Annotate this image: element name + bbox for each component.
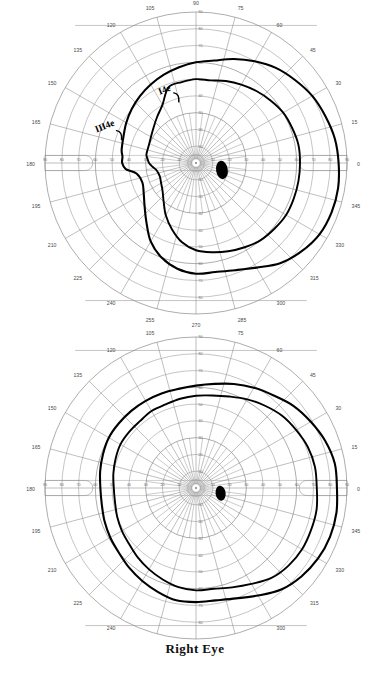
radial-tick-label: 10: [211, 483, 215, 487]
annotation-leader: [174, 93, 179, 102]
meridian-label: 330: [335, 242, 344, 248]
radial-tick-label: 90: [199, 10, 203, 14]
radial-tick-label: 90: [43, 483, 47, 487]
grid-meridian-fine: [197, 438, 203, 484]
radial-tick-label: 70: [199, 44, 203, 48]
radial-tick-label: 60: [295, 483, 299, 487]
radial-tick-label: 30: [199, 111, 203, 115]
radial-tick-label: 40: [199, 419, 203, 423]
radial-tick-label: 10: [177, 158, 181, 162]
meridian-label: 240: [107, 300, 116, 306]
meridian-label: 60: [277, 22, 283, 28]
radial-tick-label: 90: [199, 335, 203, 339]
grid-meridian-fine: [146, 489, 192, 495]
fixation-point: [195, 487, 197, 489]
radial-tick-label: 10: [199, 178, 203, 182]
grid-meridian: [199, 56, 303, 160]
visual-field-chart-bottom: 0153045607590105120135150165180195210225…: [0, 330, 390, 640]
meridian-label: 105: [146, 5, 155, 11]
grid-meridian: [200, 449, 342, 487]
grid-meridian-fine: [165, 491, 193, 528]
grid-meridian: [50, 449, 192, 487]
visual-field-chart-top: 0153045607590105120135150165180195210225…: [0, 0, 390, 330]
grid-meridian-fine: [156, 457, 193, 485]
grid-meridian-fine: [199, 123, 227, 160]
radial-tick-label: 10: [177, 483, 181, 487]
radial-tick-label: 30: [144, 483, 148, 487]
meridian-label: 165: [32, 119, 41, 125]
radial-tick-label: 20: [228, 483, 232, 487]
radial-tick-label: 20: [199, 128, 203, 132]
meridian-label: 120: [107, 347, 116, 353]
radial-tick-label: 80: [60, 483, 64, 487]
meridian-label: 0: [357, 486, 360, 492]
grid-meridian-fine: [146, 481, 192, 487]
isopter-label: I4e: [157, 83, 172, 97]
radial-tick-label: 40: [261, 483, 265, 487]
radial-tick-label: 50: [199, 245, 203, 249]
grid-meridian: [197, 167, 235, 309]
blind-spot: [215, 485, 227, 501]
grid-meridian-fine: [189, 492, 195, 538]
meridian-label: 0: [357, 161, 360, 167]
radial-tick-label: 90: [43, 158, 47, 162]
polar-plot-bottom: 0153045607590105120135150165180195210225…: [0, 330, 390, 640]
meridian-label: 30: [335, 80, 341, 86]
fixation-point: [195, 162, 197, 164]
grid-meridian: [89, 381, 193, 485]
radial-tick-label: 80: [328, 158, 332, 162]
meridian-label: 45: [310, 372, 316, 378]
radial-tick-label: 20: [199, 520, 203, 524]
meridian-label: 120: [107, 22, 116, 28]
radial-tick-label: 30: [244, 158, 248, 162]
radial-tick-label: 80: [199, 27, 203, 31]
radial-tick-label: 70: [199, 279, 203, 283]
radial-tick-label: 70: [311, 158, 315, 162]
meridian-label: 75: [238, 330, 244, 336]
perimetry-report: 0153045607590105120135150165180195210225…: [0, 0, 390, 673]
radial-tick-label: 70: [199, 369, 203, 373]
meridian-label: 165: [32, 444, 41, 450]
meridian-label: 300: [277, 300, 286, 306]
radial-tick-label: 50: [199, 403, 203, 407]
radial-tick-label: 40: [127, 483, 131, 487]
meridian-label: 15: [352, 119, 358, 125]
chart-caption: Right Eye: [0, 641, 390, 657]
radial-tick-label: 50: [278, 483, 282, 487]
radial-tick-label: 40: [127, 158, 131, 162]
meridian-label: 90: [193, 330, 199, 331]
grid-meridian-fine: [165, 166, 193, 203]
meridian-label: 330: [335, 567, 344, 573]
radial-tick-label: 80: [199, 352, 203, 356]
meridian-label: 345: [352, 528, 361, 534]
radial-tick-label: 30: [199, 212, 203, 216]
radial-tick-label: 70: [199, 604, 203, 608]
radial-tick-label: 70: [77, 483, 81, 487]
radial-tick-label: 10: [211, 158, 215, 162]
radial-tick-label: 80: [199, 621, 203, 625]
radial-tick-label: 20: [160, 483, 164, 487]
grid-meridian-fine: [165, 123, 193, 160]
grid-meridian-fine: [200, 481, 246, 487]
meridian-label: 210: [48, 242, 57, 248]
meridian-label: 225: [73, 275, 82, 281]
grid-meridian-fine: [146, 156, 192, 162]
radial-tick-label: 50: [110, 158, 114, 162]
annotation-leader: [117, 131, 122, 140]
grid-meridian: [50, 489, 192, 527]
radial-tick-label: 60: [93, 158, 97, 162]
radial-tick-label: 40: [199, 229, 203, 233]
grid-meridian-fine: [197, 167, 203, 213]
grid-meridian: [50, 124, 192, 162]
grid-meridian-fine: [165, 448, 193, 485]
radial-tick-label: 20: [199, 195, 203, 199]
meridian-label: 75: [238, 5, 244, 11]
meridian-label: 180: [26, 161, 35, 167]
radial-tick-label: 60: [199, 386, 203, 390]
radial-tick-label: 60: [199, 262, 203, 266]
grid-meridian: [197, 342, 235, 484]
meridian-label: 270: [192, 322, 201, 328]
meridian-label: 225: [73, 600, 82, 606]
radial-tick-label: 40: [261, 158, 265, 162]
grid-meridian-fine: [199, 132, 236, 160]
